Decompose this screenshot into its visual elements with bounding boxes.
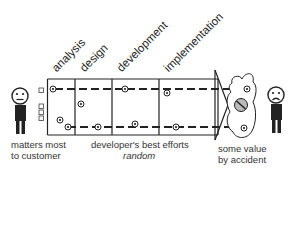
customer-caption-line2: to customer xyxy=(11,150,61,161)
requirement-boxes xyxy=(39,88,44,121)
customer-caption-line1: matters most xyxy=(11,139,66,150)
customer-figure-icon xyxy=(12,88,28,134)
outcome-caption-line2: by accident xyxy=(218,154,266,165)
work-item-dots xyxy=(50,86,179,130)
accidental-value-blob xyxy=(227,74,256,138)
process-box xyxy=(48,70,229,140)
process-caption-line2: random xyxy=(123,150,155,161)
sad-customer-figure-icon xyxy=(268,87,284,133)
process-caption-line1: developer's best efforts xyxy=(91,139,189,150)
no-entry-icon xyxy=(235,99,248,112)
outcome-caption-line1: some value xyxy=(218,143,267,154)
